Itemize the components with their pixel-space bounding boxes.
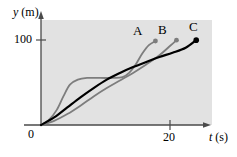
curve-label-b: B [158,23,167,36]
x-axis-label: t (s) [209,131,228,143]
x-tick-label-20: 20 [163,131,175,143]
origin-label: 0 [28,128,34,140]
curve-label-a: A [133,24,142,37]
y-tick-label-100: 100 [14,33,32,45]
endpoint-dot-b [174,38,179,43]
graph-figure: y (m) t (s) 100 20 0 A B C [0,0,237,157]
x-axis-unit: (s) [212,130,228,144]
endpoint-dot-a [153,39,158,44]
y-axis-arrow [38,11,44,19]
y-axis-label: y (m) [13,6,39,18]
y-axis-unit: (m) [18,5,38,19]
endpoint-dot-c [193,37,199,43]
plot-canvas [0,0,237,157]
curve-label-c: C [189,20,198,33]
